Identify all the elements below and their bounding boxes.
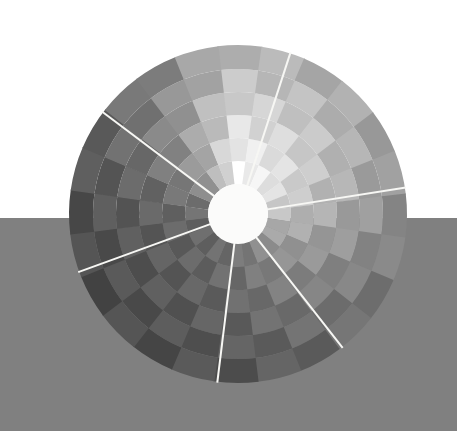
ring-segment [313, 202, 337, 228]
center-hub [208, 184, 268, 244]
ring-segment [226, 115, 252, 139]
ring-segment [93, 193, 117, 232]
ring-segment [223, 92, 256, 116]
ring-segment [381, 193, 407, 238]
color-wheel [0, 0, 457, 431]
color-wheel-svg [0, 0, 457, 431]
ring-segment [336, 199, 360, 232]
ring-segment [69, 189, 95, 234]
scene-canvas [0, 0, 457, 431]
ring-segment [359, 196, 383, 235]
ring-segment [220, 69, 259, 93]
ring-segment [217, 45, 262, 71]
ring-segment [139, 200, 163, 226]
ring-segment [116, 196, 140, 229]
